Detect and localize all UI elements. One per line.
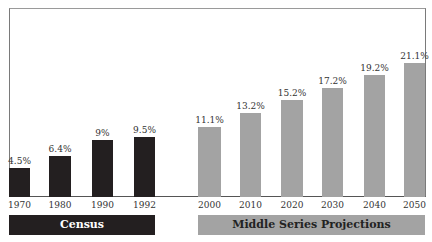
bar-1990 xyxy=(92,140,113,197)
year-label-2010: 2010 xyxy=(236,200,266,210)
bar-1970 xyxy=(9,168,30,197)
bar-1980 xyxy=(49,156,71,197)
year-label-1992: 1992 xyxy=(130,200,160,210)
year-label-1980: 1980 xyxy=(45,200,75,210)
value-label-1990: 9% xyxy=(83,128,123,138)
value-label-2010: 13.2% xyxy=(231,101,271,111)
value-label-1980: 6.4% xyxy=(40,144,80,154)
year-label-1970: 1970 xyxy=(5,200,35,210)
year-label-2030: 2030 xyxy=(318,200,348,210)
value-label-1970: 4.5% xyxy=(0,156,40,166)
value-label-2050: 21.1% xyxy=(395,51,432,61)
year-label-1990: 1990 xyxy=(88,200,118,210)
bar-2000 xyxy=(198,127,221,197)
value-label-1992: 9.5% xyxy=(125,125,165,135)
bar-2040 xyxy=(364,75,385,197)
value-label-2000: 11.1% xyxy=(190,115,230,125)
census-banner: Census xyxy=(9,215,155,235)
bar-2030 xyxy=(322,88,343,197)
bar-2050 xyxy=(404,63,425,197)
value-label-2020: 15.2% xyxy=(272,88,312,98)
year-label-2040: 2040 xyxy=(360,200,390,210)
value-label-2040: 19.2% xyxy=(355,63,395,73)
projections-banner: Middle Series Projections xyxy=(198,215,425,235)
bar-1992 xyxy=(134,137,155,197)
value-label-2030: 17.2% xyxy=(313,76,353,86)
year-label-2000: 2000 xyxy=(195,200,225,210)
bar-2020 xyxy=(281,100,303,197)
year-label-2050: 2050 xyxy=(400,200,430,210)
year-label-2020: 2020 xyxy=(277,200,307,210)
bar-2010 xyxy=(240,113,261,197)
